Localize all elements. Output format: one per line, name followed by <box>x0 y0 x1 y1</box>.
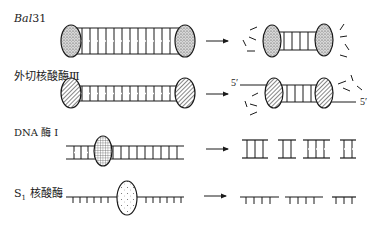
arrow-icon <box>206 92 229 97</box>
nuclease-diagram: 5′ 5′ <box>0 0 380 230</box>
exo3-product: 5′ 5′ <box>231 75 367 115</box>
arrow-icon <box>206 147 229 152</box>
five-prime-label-left: 5′ <box>231 77 238 88</box>
arrow-icon <box>206 39 229 44</box>
bal31-product <box>243 24 349 57</box>
exo3-substrate <box>61 78 195 108</box>
arrow-icon <box>204 194 227 199</box>
s1-substrate <box>66 181 184 215</box>
dnase1-fragments <box>240 140 360 158</box>
s1-fragments <box>240 197 356 204</box>
bal31-substrate <box>61 25 195 57</box>
ss-fragment-2 <box>285 197 323 204</box>
ss-fragment-3 <box>332 197 356 204</box>
five-prime-label-right: 5′ <box>360 96 367 107</box>
dnase1-substrate <box>66 136 184 166</box>
ss-fragment-1 <box>240 197 279 204</box>
